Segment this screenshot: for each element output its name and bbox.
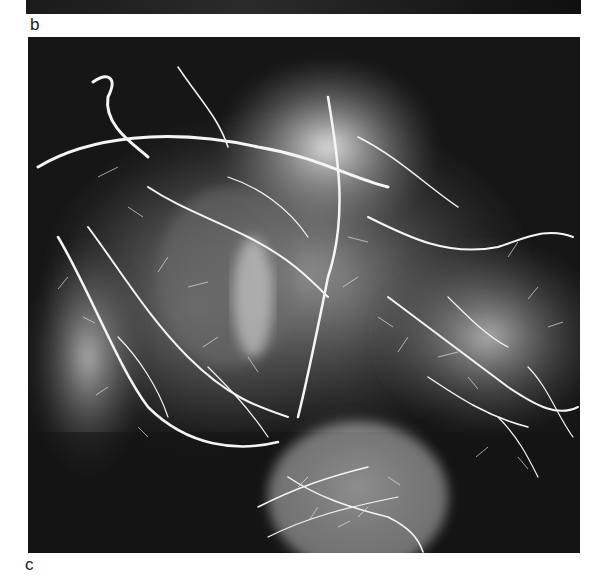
panel-b-image [26,0,581,14]
panel-b-label: b [30,16,39,33]
panel-c-label: c [25,556,34,573]
angiogram-graphic [28,37,580,553]
panel-c-image [28,37,580,553]
